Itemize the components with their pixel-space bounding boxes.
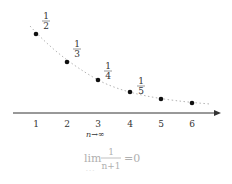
fraction-denominator: 5 <box>138 86 144 96</box>
data-point <box>159 97 164 102</box>
fraction-denominator: 4 <box>105 71 111 81</box>
decay-curve <box>30 26 210 104</box>
limit-subscript: n→∞ <box>86 130 105 139</box>
limit-expression: lim 1 n+1 =0 ‑ ‑ ‑ <box>84 147 140 173</box>
fraction-numerator: 1 <box>74 39 80 49</box>
lim-denominator: n+1 <box>101 161 120 171</box>
lim-ghost-subscript: ‑ ‑ ‑ <box>86 167 95 173</box>
data-point <box>96 78 101 83</box>
tick-labels: 123456 <box>33 119 195 129</box>
fraction-labels: 12131415 <box>42 11 145 96</box>
fraction-numerator: 1 <box>138 76 144 86</box>
data-point <box>34 32 39 37</box>
fraction-numerator: 1 <box>105 61 111 71</box>
axis-arrow-icon <box>214 110 221 116</box>
tick-label: 3 <box>95 119 101 129</box>
lim-numerator: 1 <box>108 147 114 157</box>
tick-label: 5 <box>158 119 164 129</box>
data-point <box>190 101 195 106</box>
tick-label: 1 <box>33 119 39 129</box>
sequence-limit-diagram: 12131415 123456 n→∞ lim 1 n+1 =0 ‑ ‑ ‑ <box>0 0 232 184</box>
tick-label: 6 <box>189 119 195 129</box>
fraction-denominator: 3 <box>74 49 80 59</box>
data-point <box>128 90 133 95</box>
data-point <box>65 60 70 65</box>
data-points <box>34 32 195 106</box>
lim-operator: lim <box>84 152 102 165</box>
tick-label: 4 <box>127 119 133 129</box>
tick-label: 2 <box>64 119 70 129</box>
fraction-numerator: 1 <box>43 11 49 21</box>
fraction-denominator: 2 <box>43 21 49 31</box>
lim-equals: =0 <box>124 152 140 165</box>
